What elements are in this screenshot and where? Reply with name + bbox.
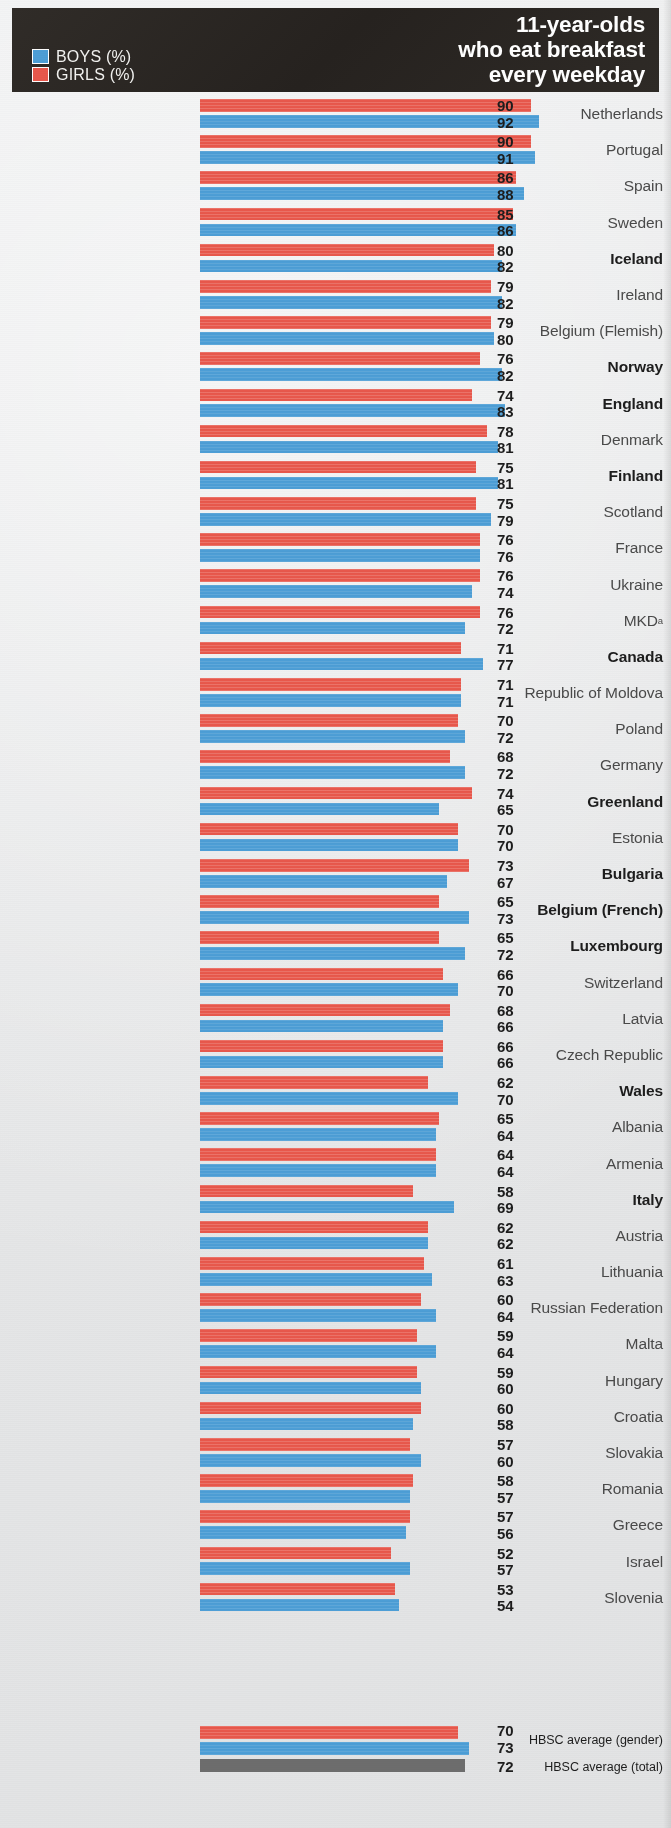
bar-boys [200, 1309, 436, 1322]
bar-girls [200, 1004, 450, 1017]
chart-row-values: 7881 [497, 424, 557, 457]
chart-row: Germany6872 [0, 747, 671, 783]
value-girls: 75 [497, 496, 557, 513]
value-girls: 62 [497, 1220, 557, 1237]
chart-row-bars [200, 1438, 421, 1468]
chart-row: Lithuania6163 [0, 1254, 671, 1290]
bar-boys [200, 622, 465, 635]
chart-row-bars [200, 1402, 421, 1432]
bar-boys [200, 151, 535, 164]
bar-girls [200, 1583, 395, 1596]
chart-row: Romania5857 [0, 1471, 671, 1507]
value-boys: 82 [497, 296, 557, 313]
average-total-bars [200, 1759, 465, 1789]
value-boys: 72 [497, 621, 557, 638]
chart-row-bars [200, 280, 502, 310]
chart-title: 11-year-olds who eat breakfast every wee… [458, 12, 645, 87]
value-girls: 65 [497, 894, 557, 911]
value-girls: 85 [497, 207, 557, 224]
bar-girls [200, 859, 469, 872]
chart-row-bars [200, 1112, 439, 1142]
bar-girls [200, 1329, 417, 1342]
bar-boys [200, 875, 447, 888]
bar-boys [200, 549, 480, 562]
chart-row-values: 6163 [497, 1256, 557, 1289]
chart-row-bars [200, 1547, 410, 1577]
legend-item-girls: GIRLS (%) [32, 66, 135, 83]
bar-girls [200, 1257, 424, 1270]
value-girls: 71 [497, 641, 557, 658]
average-gender-value-boys: 73 [497, 1740, 557, 1757]
chart-row-values: 6572 [497, 930, 557, 963]
bar-boys [200, 1599, 399, 1612]
value-girls: 58 [497, 1184, 557, 1201]
value-girls: 75 [497, 460, 557, 477]
value-boys: 71 [497, 694, 557, 711]
chart-row-bars [200, 1474, 413, 1504]
chart-row: Spain8688 [0, 168, 671, 204]
bar-girls [200, 461, 476, 474]
bar-girls [200, 1148, 436, 1161]
bar-boys [200, 766, 465, 779]
bar-boys [200, 947, 465, 960]
bar-girls [200, 569, 480, 582]
chart-row-values: 5756 [497, 1509, 557, 1542]
chart-row-bars [200, 1293, 436, 1323]
chart-row-bars [200, 787, 472, 817]
chart-row: Armenia6464 [0, 1145, 671, 1181]
average-gender-row: HBSC average (gender) 70 73 [0, 1722, 671, 1758]
bar-boys [200, 1164, 436, 1177]
value-boys: 64 [497, 1345, 557, 1362]
value-boys: 73 [497, 911, 557, 928]
bar-boys [200, 1562, 410, 1575]
chart-row-values: 7465 [497, 786, 557, 819]
chart-row-bars [200, 1221, 428, 1251]
bar-boys [200, 730, 465, 743]
bar-boys [200, 513, 491, 526]
chart-row: Russian Federation6064 [0, 1290, 671, 1326]
chart-row: Austria6262 [0, 1218, 671, 1254]
value-girls: 70 [497, 822, 557, 839]
bar-boys [200, 1020, 443, 1033]
chart-row-bars [200, 1148, 436, 1178]
bar-girls [200, 244, 494, 257]
chart-row-bars [200, 1004, 450, 1034]
chart-row: Sweden8586 [0, 205, 671, 241]
value-boys: 72 [497, 730, 557, 747]
chart-row: Greenland7465 [0, 784, 671, 820]
chart-row: Estonia7070 [0, 820, 671, 856]
value-boys: 64 [497, 1164, 557, 1181]
chart-row: Croatia6058 [0, 1399, 671, 1435]
value-boys: 67 [497, 875, 557, 892]
value-boys: 64 [497, 1128, 557, 1145]
chart-row: Ireland7982 [0, 277, 671, 313]
legend-item-boys: BOYS (%) [32, 48, 135, 65]
value-girls: 65 [497, 1111, 557, 1128]
bar-girls [200, 1366, 417, 1379]
chart-row-values: 5964 [497, 1328, 557, 1361]
value-girls: 60 [497, 1401, 557, 1418]
chart-averages: HBSC average (gender) 70 73 HBSC average… [0, 1722, 671, 1780]
bar-boys [200, 1490, 410, 1503]
chart-row: Czech Republic6666 [0, 1037, 671, 1073]
chart-row: Belgium (Flemish)7980 [0, 313, 671, 349]
value-girls: 57 [497, 1509, 557, 1526]
chart-row-bars [200, 1076, 458, 1106]
bar-girls [200, 1510, 410, 1523]
page-edge-shadow [663, 0, 671, 1828]
chart-row-values: 7682 [497, 351, 557, 384]
value-girls: 79 [497, 279, 557, 296]
chart-row-values: 6872 [497, 749, 557, 782]
bar-girls [200, 968, 443, 981]
chart-row-values: 7171 [497, 677, 557, 710]
chart-row: Finland7581 [0, 458, 671, 494]
value-girls: 80 [497, 243, 557, 260]
chart-row-bars [200, 1040, 443, 1070]
value-girls: 62 [497, 1075, 557, 1092]
bar-boys [200, 803, 439, 816]
value-boys: 56 [497, 1526, 557, 1543]
chart-title-line-2: who eat breakfast [458, 37, 645, 62]
chart-row-bars [200, 171, 524, 201]
chart-row: Israel5257 [0, 1544, 671, 1580]
bar-boys [200, 694, 461, 707]
